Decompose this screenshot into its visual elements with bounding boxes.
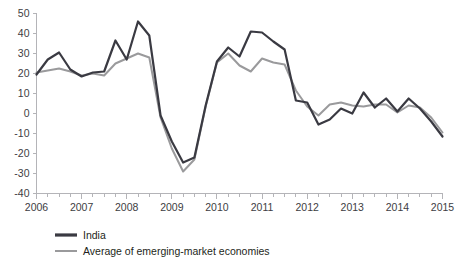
line-chart: 50403020100-10-20-30-40 2006200720082009…	[0, 0, 457, 269]
y-tick-label: -40	[14, 187, 29, 199]
x-tick-label: 2006	[25, 201, 49, 213]
chart-background	[0, 0, 457, 269]
y-tick-label: -30	[14, 167, 29, 179]
x-tick-label: 2011	[251, 201, 274, 213]
y-tick-label: 20	[18, 67, 30, 79]
x-tick-label: 2008	[115, 201, 139, 213]
y-tick-label: 0	[24, 107, 30, 119]
x-tick-label: 2012	[295, 201, 319, 213]
x-tick-label: 2010	[205, 201, 229, 213]
y-tick-label: -10	[14, 127, 29, 139]
y-tick-label: 40	[18, 27, 30, 39]
x-tick-label: 2013	[341, 201, 365, 213]
legend-label: Average of emerging-market economies	[83, 245, 270, 257]
x-tick-label: 2015	[431, 201, 455, 213]
x-tick-label: 2009	[160, 201, 184, 213]
y-tick-label: 50	[18, 7, 30, 19]
x-tick-label: 2007	[70, 201, 94, 213]
y-tick-label: 10	[18, 87, 30, 99]
y-tick-label: 30	[18, 47, 30, 59]
chart-container: 50403020100-10-20-30-40 2006200720082009…	[0, 0, 457, 269]
y-tick-label: -20	[14, 147, 29, 159]
x-tick-label: 2014	[386, 201, 410, 213]
legend-label: India	[83, 229, 106, 241]
